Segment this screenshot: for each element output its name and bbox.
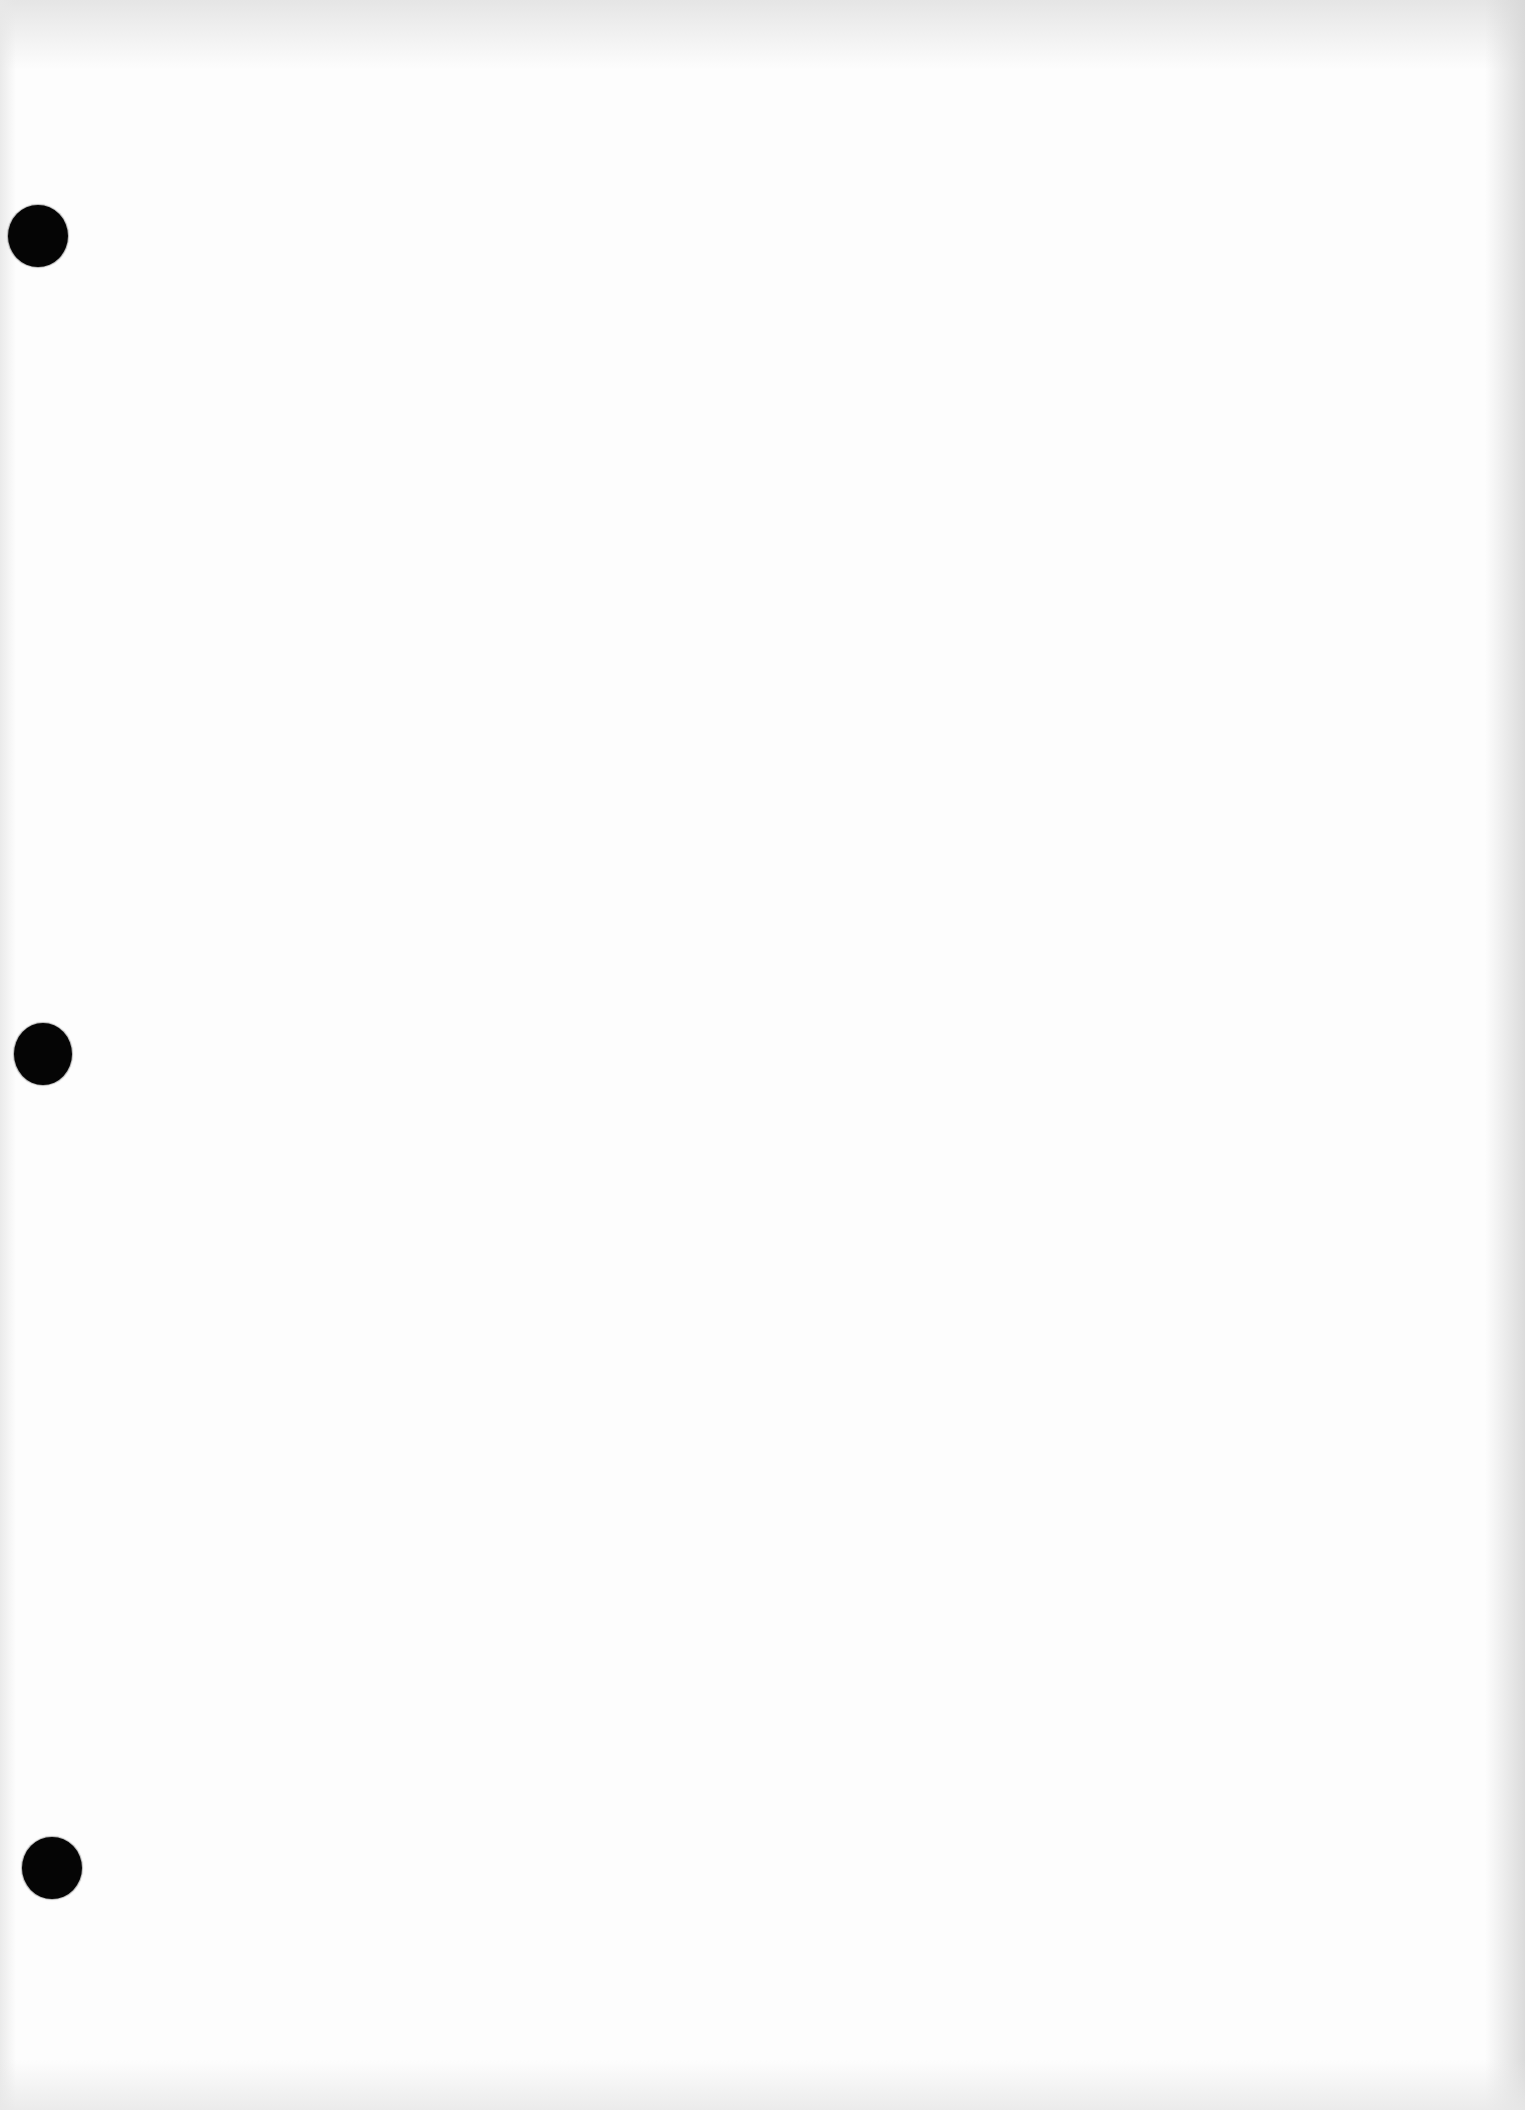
- punch-hole-top: [8, 205, 68, 267]
- punch-hole-middle: [14, 1023, 72, 1085]
- scan-edge-shading-right: [1485, 0, 1525, 2110]
- scanned-page: [0, 0, 1525, 2110]
- punch-hole-bottom: [22, 1837, 82, 1899]
- scan-edge-shading-top: [0, 0, 1525, 70]
- scan-edge-shading-bottom: [0, 2060, 1525, 2110]
